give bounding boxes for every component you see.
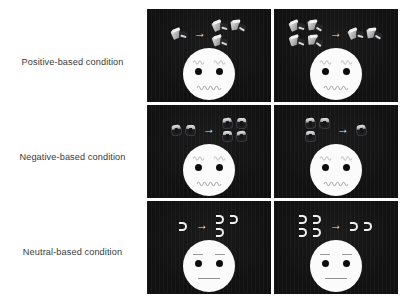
- positive-object-icon: [307, 34, 324, 49]
- panel-positive-right: →: [274, 9, 398, 102]
- neutral-object-icon: [215, 214, 226, 225]
- positive-object-icon: [348, 26, 365, 42]
- eye-right-icon: [216, 164, 223, 171]
- transition-arrow-icon: →: [330, 27, 342, 39]
- eyebrow-right-icon: [214, 156, 225, 161]
- mouth-icon: [197, 181, 221, 187]
- positive-object-icon: [212, 19, 229, 35]
- negative-object-icon: [304, 117, 316, 129]
- condition-label-positive: Positive-based condition: [0, 57, 145, 68]
- neutral-object-icon: [349, 221, 360, 232]
- eye-left-icon: [322, 164, 329, 171]
- positive-object-icon: [367, 27, 383, 41]
- stimulus-panel-grid: → →: [147, 9, 398, 294]
- avatar-face: [310, 144, 362, 196]
- eye-left-icon: [195, 164, 202, 171]
- eyebrow-right-icon: [341, 60, 352, 65]
- eye-right-icon: [216, 68, 223, 75]
- neutral-object-icon: [229, 214, 240, 225]
- eye-right-icon: [343, 260, 350, 267]
- neutral-object-icon: [298, 214, 309, 225]
- eyebrow-right-icon: [215, 254, 225, 255]
- panel-negative-left: →: [147, 105, 271, 198]
- neutral-object-icon: [298, 227, 309, 238]
- transition-arrow-icon: →: [194, 27, 206, 39]
- mouth-icon: [324, 85, 348, 91]
- before-set: [290, 20, 323, 48]
- after-set: [349, 221, 374, 232]
- panel-negative-right: →: [274, 105, 398, 198]
- positive-object-icon: [289, 19, 306, 35]
- before-set: [171, 125, 196, 136]
- avatar-face: [310, 240, 362, 292]
- positive-object-icon: [308, 20, 324, 34]
- eye-left-icon: [195, 68, 202, 75]
- negative-object-icon: [222, 131, 233, 142]
- avatar-face: [310, 48, 362, 100]
- eyebrow-right-icon: [341, 156, 352, 161]
- negative-object-icon: [319, 118, 331, 130]
- transition-arrow-icon: →: [337, 123, 349, 135]
- positive-object-icon: [231, 20, 247, 34]
- eye-right-icon: [343, 68, 350, 75]
- negative-object-icon: [235, 130, 247, 142]
- eyebrow-left-icon: [320, 254, 330, 255]
- eye-right-icon: [216, 260, 223, 267]
- condition-label-neutral: Neutral-based condition: [0, 247, 145, 258]
- negative-object-icon: [185, 124, 197, 136]
- after-set: [213, 20, 246, 48]
- after-set: [215, 214, 240, 238]
- before-set: [298, 214, 323, 238]
- eyebrow-left-icon: [320, 60, 331, 65]
- transition-arrow-icon: →: [196, 219, 208, 231]
- condition-label-column: Positive-based condition Negative-based …: [0, 9, 145, 294]
- mouth-icon: [198, 278, 220, 279]
- panel-neutral-right: →: [274, 201, 398, 294]
- eyebrow-right-icon: [342, 254, 352, 255]
- eye-left-icon: [195, 260, 202, 267]
- mouth-icon: [197, 85, 221, 91]
- eyebrow-left-icon: [193, 254, 203, 255]
- negative-object-icon: [305, 131, 316, 142]
- negative-object-icon: [221, 117, 233, 129]
- eyebrow-left-icon: [193, 156, 204, 161]
- positive-object-icon: [289, 34, 305, 48]
- transition-arrow-icon: →: [330, 219, 342, 231]
- avatar-face: [183, 240, 235, 292]
- eyebrow-left-icon: [193, 60, 204, 65]
- after-set: [356, 125, 367, 136]
- neutral-object-icon: [215, 227, 226, 238]
- avatar-face: [183, 48, 235, 100]
- neutral-object-icon: [312, 214, 323, 225]
- neutral-object-icon: [363, 221, 374, 232]
- condition-figure: Positive-based condition Negative-based …: [0, 0, 410, 306]
- before-set: [172, 28, 187, 41]
- mouth-icon: [324, 181, 348, 187]
- after-set: [222, 118, 247, 142]
- panel-positive-left: →: [147, 9, 271, 102]
- negative-object-icon: [355, 124, 367, 136]
- eyebrow-right-icon: [214, 60, 225, 65]
- positive-object-icon: [212, 34, 228, 48]
- negative-object-icon: [236, 118, 248, 130]
- eye-left-icon: [322, 68, 329, 75]
- neutral-object-icon: [312, 227, 323, 238]
- panel-neutral-left: →: [147, 201, 271, 294]
- transition-arrow-icon: →: [203, 123, 215, 135]
- negative-object-icon: [170, 124, 182, 136]
- neutral-object-icon: [178, 221, 189, 232]
- after-set: [349, 28, 382, 41]
- eye-right-icon: [343, 164, 350, 171]
- positive-object-icon: [171, 26, 188, 42]
- condition-label-negative: Negative-based condition: [0, 152, 145, 163]
- eye-left-icon: [322, 260, 329, 267]
- mouth-icon: [325, 278, 347, 279]
- before-set: [178, 221, 189, 232]
- avatar-face: [183, 144, 235, 196]
- eyebrow-left-icon: [320, 156, 331, 161]
- before-set: [305, 118, 330, 142]
